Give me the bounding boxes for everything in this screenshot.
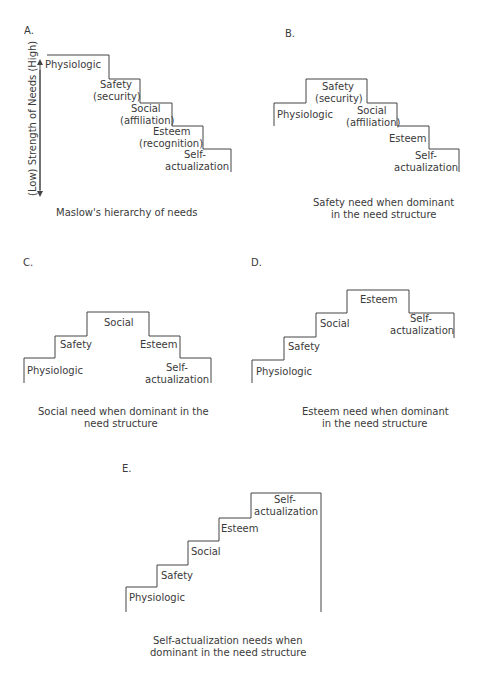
panel-d-letter: D. [251, 257, 262, 268]
step-physiologic: Physiologic [45, 59, 101, 70]
panel-b-letter: B. [285, 28, 295, 39]
step-safety: Safety [161, 570, 193, 581]
step-physiologic: Physiologic [277, 109, 333, 120]
step-self-sub: actualization [165, 161, 229, 172]
caption-d-line2: in the need structure [322, 418, 427, 429]
caption-b-line1: Safety need when dominant [313, 197, 454, 208]
step-safety: Safety [60, 339, 92, 350]
panel-a-letter: A. [24, 25, 34, 36]
step-esteem-sub: (recognition) [139, 138, 203, 149]
step-social-sub: (affiliation) [346, 117, 401, 128]
step-esteem: Esteem [389, 133, 427, 144]
panel-b: B. Safety (security) Physiologic Social … [274, 28, 459, 220]
panel-e: E. Self- actualization Esteem Social Saf… [122, 463, 321, 658]
step-social: Social [191, 546, 221, 557]
caption-c-line2: need structure [84, 418, 158, 429]
step-esteem: Esteem [360, 294, 398, 305]
step-physiologic: Physiologic [129, 592, 185, 603]
step-physiologic: Physiologic [27, 365, 83, 376]
axis-label: (Low) Strength of Needs (High) [27, 41, 38, 196]
caption-e-line2: dominant in the need structure [150, 647, 306, 658]
step-safety-sub: (security) [93, 91, 141, 102]
step-esteem: Esteem [221, 523, 259, 534]
step-self-sub: actualization [254, 506, 318, 517]
step-social: Social [131, 103, 161, 114]
step-self: Self- [184, 149, 206, 160]
step-social: Social [320, 318, 350, 329]
caption-d-line1: Esteem need when dominant [302, 406, 449, 417]
maslow-diagrams: A. (Low) Strength of Needs (High) Physio… [0, 0, 480, 679]
step-self-sub: actualization [145, 374, 209, 385]
caption-b-line2: in the need structure [331, 209, 436, 220]
step-esteem: Esteem [153, 126, 191, 137]
step-self-sub: actualization [390, 325, 454, 336]
step-safety: Safety [288, 341, 320, 352]
panel-e-letter: E. [122, 463, 132, 474]
step-social-sub: (affiliation) [120, 115, 175, 126]
step-self: Self- [166, 362, 188, 373]
panel-c-letter: C. [23, 257, 33, 268]
panel-d: D. Esteem Social Self- actualization Saf… [251, 257, 454, 429]
step-self: Self- [415, 150, 437, 161]
step-safety-sub: (security) [315, 93, 363, 104]
panel-a: A. (Low) Strength of Needs (High) Physio… [24, 25, 231, 218]
step-social: Social [357, 105, 387, 116]
caption-a: Maslow's hierarchy of needs [56, 207, 198, 218]
caption-c-line1: Social need when dominant in the [38, 406, 209, 417]
step-safety: Safety [322, 81, 354, 92]
step-self-sub: actualization [394, 162, 458, 173]
panel-c: C. Social Safety Esteem Physiologic Self… [23, 257, 211, 429]
caption-e-line1: Self-actualization needs when [153, 635, 303, 646]
step-physiologic: Physiologic [256, 366, 312, 377]
step-esteem: Esteem [140, 339, 178, 350]
step-safety: Safety [100, 79, 132, 90]
step-self: Self- [274, 494, 296, 505]
step-social: Social [104, 317, 134, 328]
step-self: Self- [410, 313, 432, 324]
